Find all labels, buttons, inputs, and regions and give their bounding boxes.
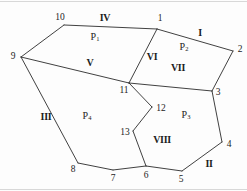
edge-9-10 [21, 25, 64, 57]
figure-frame [0, 2, 247, 190]
edge-11-3 [129, 83, 212, 91]
edge-5-6 [146, 166, 182, 171]
edge-group [21, 25, 233, 171]
edge-6-7 [113, 166, 146, 170]
edge-4-5 [182, 142, 222, 171]
edge-11-12 [129, 83, 152, 107]
edge-12-13 [133, 107, 152, 131]
edge-11-1 [129, 29, 157, 83]
edge-13-6 [133, 131, 146, 166]
edge-10-1 [64, 25, 157, 29]
edge-8-9 [21, 57, 78, 163]
edge-9-11 [21, 57, 129, 83]
edge-3-4 [212, 91, 222, 142]
edge-7-8 [78, 163, 113, 170]
edge-2-3 [212, 51, 233, 91]
planar-subdivision-figure: 12345678910111213 IIIIIIIVVVIVIIVIII P1P… [0, 0, 247, 191]
edge-1-2 [157, 29, 233, 51]
figure-canvas [0, 0, 247, 191]
